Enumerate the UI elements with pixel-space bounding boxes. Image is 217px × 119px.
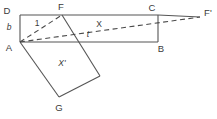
figure-canvas bbox=[0, 0, 217, 119]
vertex-label-C: C bbox=[148, 3, 155, 13]
dashed-edges bbox=[20, 15, 200, 42]
vertex-label-B: B bbox=[158, 44, 165, 54]
geometry-figure: D F C F' A B G b 1 X t X' bbox=[0, 0, 217, 119]
edge-AG bbox=[20, 42, 59, 97]
measure-label-one: 1 bbox=[35, 19, 40, 28]
vertex-label-D: D bbox=[3, 6, 10, 16]
measure-label-x-prime: X' bbox=[58, 59, 65, 68]
edge-CFp bbox=[158, 15, 200, 17]
vertex-label-F: F bbox=[58, 2, 64, 12]
edge-FH bbox=[62, 15, 100, 76]
measure-label-b: b bbox=[7, 23, 12, 32]
dash-AF bbox=[20, 15, 62, 42]
edge-GH bbox=[59, 76, 100, 97]
vertex-label-A: A bbox=[6, 43, 13, 53]
dash-AFp bbox=[20, 17, 200, 42]
vertex-label-G: G bbox=[55, 103, 63, 113]
measure-label-t: t bbox=[87, 30, 89, 39]
solid-edges bbox=[20, 15, 200, 97]
vertex-label-F-prime: F' bbox=[204, 8, 212, 18]
measure-label-x: X bbox=[96, 20, 102, 29]
